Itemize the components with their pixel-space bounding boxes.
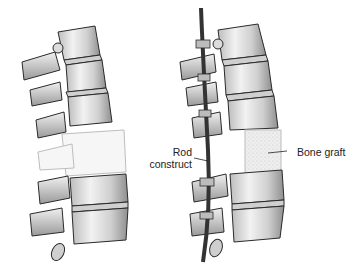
spine-drawing [0, 0, 357, 268]
rod-construct-label: Rod construct [136, 146, 192, 170]
rod-label-line2: construct [136, 158, 192, 170]
rod-leader-line [194, 158, 208, 161]
left-spine [22, 26, 128, 263]
rod-label-line1: Rod [136, 146, 192, 158]
spinal-fusion-illustration: Rod construct Bone graft [0, 0, 357, 268]
right-spine [180, 24, 284, 259]
bone-graft-label: Bone graft [297, 146, 345, 158]
